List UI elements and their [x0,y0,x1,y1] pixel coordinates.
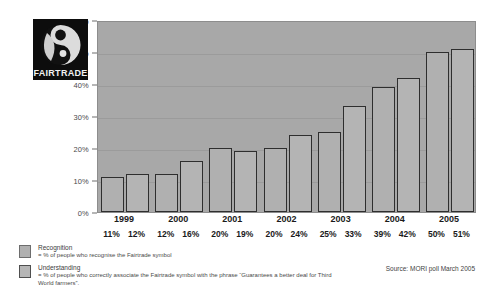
fairtrade-logo: FAIRTRADE [33,19,88,80]
value-label-understanding-2004: 42% [392,229,423,239]
y-axis-tick-label: 10% [73,177,89,186]
y-axis-tick-label: 30% [73,113,89,122]
bar-understanding-2000 [180,161,203,212]
x-axis-label-2001: 2001 [205,214,259,224]
bar-recognition-2004 [372,87,395,212]
legend-swatch-understanding [19,265,31,278]
x-axis-label-2000: 2000 [151,214,205,224]
x-axis-label-2005: 2005 [422,214,476,224]
legend-item-understanding: Understanding = % of people who correctl… [19,264,349,287]
bar-recognition-2003 [318,132,341,212]
x-axis-label-2003: 2003 [314,214,368,224]
legend-title-recognition: Recognition [38,244,349,252]
bar-recognition-2005 [426,52,449,212]
bar-understanding-2001 [234,151,257,212]
legend-title-understanding: Understanding [38,264,349,272]
bar-recognition-2001 [209,148,232,212]
legend: Recognition = % of people who recognise … [19,244,349,290]
bar-understanding-1999 [126,174,149,212]
fairtrade-logo-wordmark: FAIRTRADE [33,68,88,78]
y-axis-tick-label: 20% [73,145,89,154]
plot-area [97,21,476,213]
legend-desc-recognition: = % of people who recognise the Fairtrad… [38,252,338,260]
source-note: Source: MORI poll March 2005 [386,265,475,272]
value-label-understanding-2000: 16% [175,229,206,239]
x-axis-label-2002: 2002 [259,214,313,224]
y-axis-tick-label: 0% [78,209,89,218]
x-axis-year-labels: 1999200020012002200320042005 [97,214,476,229]
value-label-understanding-2005: 51% [446,229,477,239]
value-label-understanding-2001: 19% [229,229,260,239]
x-axis-label-1999: 1999 [97,214,151,224]
legend-swatch-recognition [19,245,31,258]
value-label-understanding-2002: 24% [284,229,315,239]
data-value-labels: 11%12%12%16%20%19%20%24%25%33%39%42%50%5… [97,229,476,243]
x-axis-label-2004: 2004 [368,214,422,224]
bar-recognition-2002 [264,148,287,212]
bar-understanding-2002 [289,135,312,212]
legend-desc-understanding: = % of people who correctly associate th… [38,272,338,287]
bar-understanding-2003 [343,106,366,212]
bar-understanding-2004 [397,78,420,212]
bar-recognition-1999 [101,177,124,212]
bar-understanding-2005 [451,49,474,212]
chart-page: 0%10%20%30%40%50%60% FAIRTRADE 199920002… [0,0,483,297]
bar-series-group [98,22,475,212]
bar-recognition-2000 [155,174,178,212]
value-label-understanding-1999: 12% [121,229,152,239]
value-label-understanding-2003: 33% [338,229,369,239]
y-axis-tick-label: 40% [73,81,89,90]
legend-item-recognition: Recognition = % of people who recognise … [19,244,349,261]
